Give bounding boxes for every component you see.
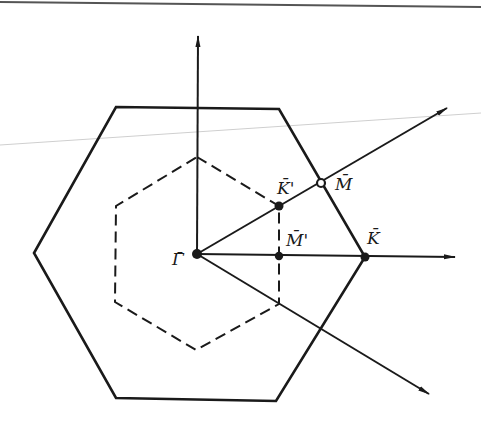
point-k-prime [275, 202, 284, 211]
axis-horizontal [197, 254, 455, 257]
guide-line [0, 113, 481, 145]
point-k [361, 253, 370, 262]
axis-vertical [197, 36, 198, 254]
label-gamma: Γ̄ [171, 249, 185, 269]
top-rule [0, 2, 481, 7]
point-gamma [192, 249, 202, 259]
axis-diagonal-down [197, 254, 429, 394]
point-m [317, 179, 325, 187]
point-m-prime [275, 252, 283, 260]
label-m-prime: M̄' [285, 229, 308, 250]
label-k: K̄ [366, 227, 381, 248]
label-k-prime: K̄' [276, 177, 294, 198]
brillouin-zone-diagram: Γ̄ K̄ M̄ K̄' M̄' [0, 0, 481, 431]
label-m: M̄ [334, 173, 353, 194]
